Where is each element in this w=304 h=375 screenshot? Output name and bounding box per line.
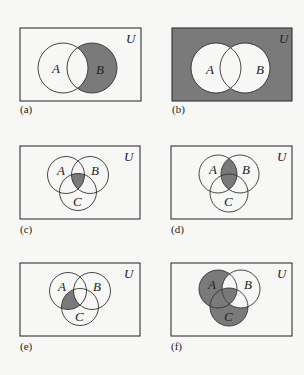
caption: (b) (172, 103, 185, 116)
universe-label: U (124, 149, 135, 164)
set-a-label: A (205, 62, 214, 77)
diagram-f: A B C U (f) (171, 263, 292, 353)
universe-label: U (277, 149, 288, 164)
diagram-e: A B C U (e) (20, 263, 140, 353)
set-c-label: C (224, 194, 233, 209)
caption: (f) (171, 340, 182, 353)
diagram-a: A B U (a) (20, 28, 141, 116)
set-a-label: A (57, 279, 66, 294)
set-a-label: A (207, 277, 216, 292)
diagram-b: A B U (b) (172, 28, 292, 116)
set-b-label: B (242, 162, 250, 177)
set-b-label: B (91, 163, 99, 178)
caption: (d) (171, 223, 184, 236)
universe-label: U (279, 31, 290, 46)
set-b-label: B (96, 62, 104, 77)
set-c-label: C (224, 309, 233, 324)
universe-label: U (126, 31, 137, 46)
set-a-label: A (51, 61, 60, 76)
set-a-label: A (208, 162, 217, 177)
caption: (a) (20, 103, 33, 116)
set-c-label: C (73, 194, 82, 209)
set-b-label: B (93, 279, 101, 294)
set-c-label: C (75, 309, 84, 324)
venn-diagram-figure: A B U (a) A B U (b) A B C U (c) (0, 0, 304, 375)
caption: (c) (20, 223, 33, 236)
set-b-label: B (256, 62, 264, 77)
universe-label: U (277, 266, 288, 281)
set-a-label: A (56, 163, 65, 178)
universe-label: U (124, 266, 135, 281)
set-b-label: B (244, 277, 252, 292)
diagram-c: A B C U (c) (20, 146, 140, 236)
caption: (e) (20, 340, 33, 353)
diagram-d: A B C U (d) (171, 146, 292, 236)
